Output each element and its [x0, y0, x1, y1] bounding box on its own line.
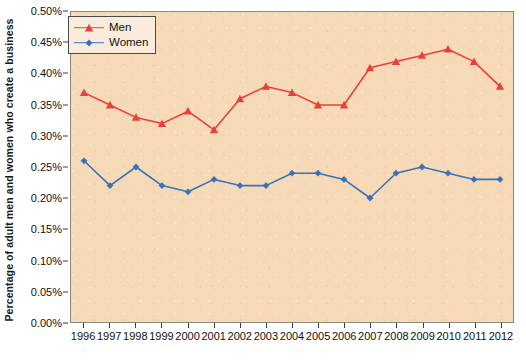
data-point-marker [184, 107, 192, 115]
x-axis-tick-label: 2010 [436, 330, 460, 342]
x-axis-tick-label: 1996 [71, 330, 95, 342]
x-axis-tick-label: 1999 [149, 330, 173, 342]
legend-label: Men [109, 22, 131, 34]
x-axis-tick-label: 2006 [332, 330, 356, 342]
legend-swatch-diamond-icon [74, 37, 104, 49]
data-point-marker [419, 164, 426, 171]
data-point-marker [263, 182, 270, 189]
y-axis-tick-label: 0.45% [31, 36, 62, 48]
x-axis-tick-mark [423, 323, 424, 328]
data-point-marker [497, 176, 504, 183]
data-point-marker [444, 45, 452, 53]
y-axis-tick-mark [63, 167, 68, 168]
x-axis-tick-mark [292, 323, 293, 328]
y-axis-tick-mark [63, 323, 68, 324]
line-chart: Percentage of adult men and women who cr… [0, 0, 526, 361]
x-axis-tick-label: 2007 [358, 330, 382, 342]
data-point-marker [315, 170, 322, 177]
x-axis-tick-label: 1998 [123, 330, 147, 342]
x-axis-tick-label: 2003 [254, 330, 278, 342]
x-axis-tick-mark [135, 323, 136, 328]
x-axis-tick-label: 2001 [201, 330, 225, 342]
x-axis-tick-label: 2004 [280, 330, 304, 342]
data-point-marker [289, 170, 296, 177]
x-axis-tick-labels: 1996199719981999200020012002200320042005… [0, 330, 526, 350]
y-axis-tick-mark [63, 229, 68, 230]
y-axis-tick-label: 0.15% [31, 223, 62, 235]
legend-label: Women [109, 37, 148, 49]
y-axis-tick-label: 0.05% [31, 286, 62, 298]
x-axis-tick-mark [318, 323, 319, 328]
y-axis-tick-labels: 0.00%0.05%0.10%0.15%0.20%0.25%0.30%0.35%… [18, 0, 68, 361]
legend-item-women[interactable]: Women [74, 35, 148, 50]
x-axis-tick-label: 2002 [228, 330, 252, 342]
data-point-marker [106, 101, 114, 109]
x-axis-tick-label: 2009 [410, 330, 434, 342]
y-axis-tick-mark [63, 198, 68, 199]
series-line [84, 161, 500, 198]
x-axis-tick-mark [214, 323, 215, 328]
data-point-marker [237, 182, 244, 189]
data-point-marker [211, 176, 218, 183]
series-men [80, 45, 504, 133]
y-axis-tick-mark [63, 104, 68, 105]
series-women [81, 157, 504, 201]
x-axis-tick-mark [266, 323, 267, 328]
x-axis-tick-label: 2011 [463, 330, 487, 342]
x-axis-tick-label: 2000 [175, 330, 199, 342]
y-axis-tick-label: 0.00% [31, 317, 62, 329]
x-axis-tick-label: 2012 [489, 330, 513, 342]
y-axis-tick-label: 0.10% [31, 255, 62, 267]
x-axis-tick-label: 1997 [97, 330, 121, 342]
data-point-marker [445, 170, 452, 177]
x-axis-tick-mark [161, 323, 162, 328]
y-axis-title-text: Percentage of adult men and women who cr… [3, 18, 15, 321]
x-axis-tick-mark [188, 323, 189, 328]
data-point-marker [236, 95, 244, 103]
y-axis-tick-label: 0.30% [31, 130, 62, 142]
x-axis-tick-mark [475, 323, 476, 328]
plot-area [70, 11, 514, 323]
x-axis-tick-mark [344, 323, 345, 328]
y-axis-tick-mark [63, 11, 68, 12]
data-point-marker [132, 113, 140, 121]
y-axis-tick-label: 0.40% [31, 67, 62, 79]
legend-item-men[interactable]: Men [74, 20, 148, 35]
y-axis-tick-mark [63, 135, 68, 136]
y-axis-tick-mark [63, 73, 68, 74]
y-axis-tick-mark [63, 291, 68, 292]
y-axis-tick-label: 0.35% [31, 99, 62, 111]
data-point-marker [80, 88, 88, 96]
data-point-marker [262, 82, 270, 90]
y-axis-tick-label: 0.25% [31, 161, 62, 173]
data-point-marker [471, 176, 478, 183]
x-axis-tick-label: 2005 [306, 330, 330, 342]
x-axis-tick-mark [109, 323, 110, 328]
chart-legend: MenWomen [68, 16, 156, 54]
data-point-marker [470, 57, 478, 65]
y-axis-tick-label: 0.50% [31, 5, 62, 17]
legend-swatch-triangle-icon [74, 22, 104, 34]
series-layer [71, 12, 513, 322]
y-axis-tick-mark [63, 260, 68, 261]
x-axis-tick-mark [83, 323, 84, 328]
x-axis-tick-mark [240, 323, 241, 328]
x-axis-tick-mark [449, 323, 450, 328]
data-point-marker [185, 188, 192, 195]
x-axis-tick-mark [501, 323, 502, 328]
x-axis-tick-label: 2008 [384, 330, 408, 342]
y-axis-title: Percentage of adult men and women who cr… [0, 0, 18, 340]
y-axis-tick-label: 0.20% [31, 192, 62, 204]
x-axis-tick-mark [370, 323, 371, 328]
x-axis-tick-mark [396, 323, 397, 328]
